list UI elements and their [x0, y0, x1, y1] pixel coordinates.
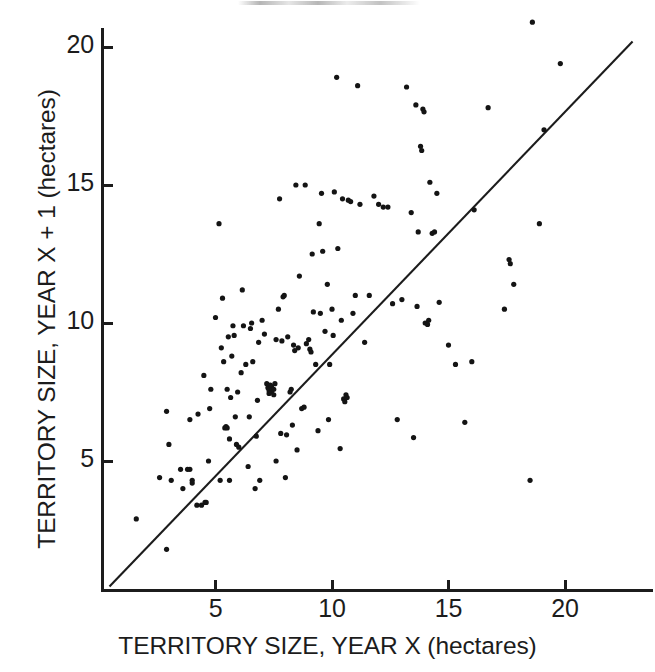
- data-point: [332, 189, 337, 194]
- data-point: [437, 300, 442, 305]
- data-point: [278, 431, 283, 436]
- data-point: [340, 196, 345, 201]
- data-point: [225, 425, 230, 430]
- data-point: [227, 478, 232, 483]
- y-axis-title: TERRITORY SIZE, YEAR X + 1 (hectares): [33, 19, 61, 619]
- data-point: [313, 362, 318, 367]
- data-point: [329, 307, 334, 312]
- data-point: [318, 311, 323, 316]
- data-point: [339, 318, 344, 323]
- data-point: [220, 296, 225, 301]
- data-point: [216, 221, 221, 226]
- data-point: [240, 287, 245, 292]
- data-point: [272, 381, 277, 386]
- data-point: [416, 229, 421, 234]
- data-point: [164, 547, 169, 552]
- data-point: [285, 334, 290, 339]
- data-point: [254, 434, 259, 439]
- data-point: [317, 221, 322, 226]
- data-point: [247, 414, 252, 419]
- data-point: [390, 301, 395, 306]
- data-point: [279, 338, 284, 343]
- data-point: [371, 193, 376, 198]
- data-point: [294, 447, 299, 452]
- data-point: [472, 207, 477, 212]
- data-point: [357, 202, 362, 207]
- data-point: [273, 337, 278, 342]
- data-point: [233, 414, 238, 419]
- data-point: [385, 204, 390, 209]
- data-point: [206, 458, 211, 463]
- data-point: [367, 293, 372, 298]
- data-point: [508, 261, 513, 266]
- data-point: [164, 409, 169, 414]
- data-point: [218, 478, 223, 483]
- data-point: [434, 191, 439, 196]
- data-layer: [0, 0, 655, 672]
- data-point: [376, 202, 381, 207]
- data-point: [195, 411, 200, 416]
- data-point: [502, 307, 507, 312]
- data-point: [194, 503, 199, 508]
- data-point: [293, 182, 298, 187]
- data-point: [353, 293, 358, 298]
- data-point: [326, 417, 331, 422]
- data-point: [362, 340, 367, 345]
- data-point: [404, 84, 409, 89]
- data-point: [271, 387, 276, 392]
- data-point: [187, 467, 192, 472]
- data-point: [134, 516, 139, 521]
- data-point: [426, 318, 431, 323]
- data-point: [303, 182, 308, 187]
- data-point: [219, 345, 224, 350]
- data-point: [208, 387, 213, 392]
- data-point: [345, 395, 350, 400]
- data-point: [530, 20, 535, 25]
- data-point: [157, 475, 162, 480]
- data-point: [277, 196, 282, 201]
- data-point: [204, 500, 209, 505]
- scatter-plot-figure: 5101520 5101520 TERRITORY SIZE, YEAR X (…: [0, 0, 655, 672]
- data-point: [334, 75, 339, 80]
- data-point: [355, 83, 360, 88]
- data-point: [250, 359, 255, 364]
- data-point: [306, 337, 311, 342]
- data-point: [262, 331, 267, 336]
- data-point: [350, 311, 355, 316]
- data-point: [236, 445, 241, 450]
- data-point: [558, 61, 563, 66]
- data-point: [432, 229, 437, 234]
- data-point: [291, 342, 296, 347]
- data-point: [537, 221, 542, 226]
- data-point: [399, 297, 404, 302]
- data-point: [315, 428, 320, 433]
- data-point: [180, 486, 185, 491]
- data-point: [226, 334, 231, 339]
- data-point: [256, 340, 261, 345]
- data-point: [331, 333, 336, 338]
- data-point: [187, 417, 192, 422]
- data-point: [290, 423, 295, 428]
- data-point: [207, 406, 212, 411]
- scatter-points: [134, 20, 563, 552]
- data-point: [241, 323, 246, 328]
- data-point: [201, 373, 206, 378]
- data-point: [421, 109, 426, 114]
- data-point: [273, 458, 278, 463]
- data-point: [414, 304, 419, 309]
- data-point: [190, 480, 195, 485]
- data-point: [239, 370, 244, 375]
- data-point: [228, 395, 233, 400]
- data-point: [271, 392, 276, 397]
- data-point: [166, 442, 171, 447]
- data-point: [243, 362, 248, 367]
- data-point: [289, 387, 294, 392]
- data-point: [283, 475, 288, 480]
- data-point: [319, 191, 324, 196]
- data-point: [338, 446, 343, 451]
- data-point: [249, 320, 254, 325]
- data-point: [486, 105, 491, 110]
- data-point: [348, 199, 353, 204]
- data-point: [227, 436, 232, 441]
- data-point: [178, 467, 183, 472]
